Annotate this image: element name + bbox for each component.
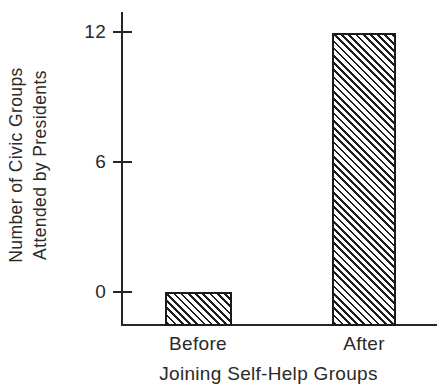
y-tick-mark-6 xyxy=(113,161,132,163)
y-axis-title-line-1: Number of Civic Groups xyxy=(6,67,27,263)
category-label-after: After xyxy=(289,333,439,355)
y-tick-mark-12 xyxy=(113,31,132,33)
bar-after xyxy=(332,33,396,326)
y-tick-label-12: 12 xyxy=(44,21,106,43)
y-axis-line xyxy=(121,12,123,326)
x-axis-title: Joining Self-Help Groups xyxy=(96,363,441,385)
y-tick-label-6: 6 xyxy=(44,151,106,173)
category-label-before: Before xyxy=(123,333,273,355)
y-tick-mark-0 xyxy=(113,291,132,293)
y-tick-label-0: 0 xyxy=(44,281,106,303)
bar-before xyxy=(165,292,232,326)
bar-chart-figure: Number of Civic Groups Attended by Presi… xyxy=(0,0,441,392)
